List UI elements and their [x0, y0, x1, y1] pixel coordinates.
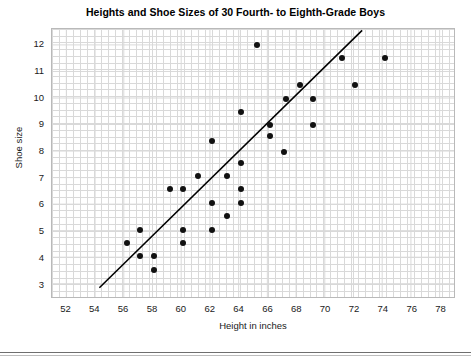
data-point: [180, 227, 186, 233]
data-point: [137, 253, 143, 259]
y-tick-label: 4: [22, 252, 44, 263]
data-point: [124, 240, 130, 246]
data-point: [281, 149, 287, 155]
page-divider-rule-secondary: [0, 355, 471, 356]
y-tick-label: 10: [22, 92, 44, 103]
y-tick-label: 3: [22, 279, 44, 290]
data-point: [238, 160, 244, 166]
data-point: [238, 200, 244, 206]
data-point: [209, 200, 215, 206]
x-tick-label: 68: [284, 303, 308, 314]
data-point: [224, 213, 230, 219]
y-tick-label: 11: [22, 65, 44, 76]
data-point: [238, 186, 244, 192]
y-tick-label: 6: [22, 198, 44, 209]
y-tick-label: 7: [22, 172, 44, 183]
data-point: [180, 240, 186, 246]
scatter-plot-figure: Heights and Shoe Sizes of 30 Fourth- to …: [0, 0, 471, 363]
data-point: [283, 96, 289, 102]
data-point: [267, 133, 273, 139]
data-point: [209, 227, 215, 233]
data-point: [209, 138, 215, 144]
data-point: [195, 173, 201, 179]
data-point: [297, 82, 303, 88]
x-axis-label: Height in inches: [51, 320, 455, 331]
data-point: [167, 186, 173, 192]
plot-area: [51, 28, 455, 298]
data-point: [224, 173, 230, 179]
x-tick-label: 70: [313, 303, 337, 314]
data-point: [180, 186, 186, 192]
x-tick-label: 66: [255, 303, 279, 314]
x-tick-label: 52: [53, 303, 77, 314]
x-tick-label: 54: [82, 303, 106, 314]
x-tick-label: 64: [227, 303, 251, 314]
x-tick-label: 58: [140, 303, 164, 314]
data-point: [238, 109, 244, 115]
data-point: [339, 55, 345, 61]
y-axis-label: Shoe size: [13, 103, 24, 193]
data-point: [352, 82, 358, 88]
data-point: [267, 122, 273, 128]
trend-line: [52, 29, 454, 297]
chart-title: Heights and Shoe Sizes of 30 Fourth- to …: [0, 6, 471, 18]
page-divider-rule: [0, 352, 471, 353]
x-tick-label: 78: [429, 303, 453, 314]
x-tick-label: 56: [111, 303, 135, 314]
x-tick-label: 72: [342, 303, 366, 314]
major-gridlines: [52, 29, 454, 297]
data-point: [254, 42, 260, 48]
x-tick-label: 62: [198, 303, 222, 314]
data-point: [310, 96, 316, 102]
y-tick-label: 5: [22, 225, 44, 236]
data-point: [137, 227, 143, 233]
data-point: [151, 253, 157, 259]
data-point: [151, 267, 157, 273]
data-point: [382, 55, 388, 61]
data-point: [310, 122, 316, 128]
y-tick-label: 12: [22, 38, 44, 49]
x-tick-label: 76: [400, 303, 424, 314]
y-tick-label: 9: [22, 118, 44, 129]
x-tick-label: 74: [371, 303, 395, 314]
y-tick-label: 8: [22, 145, 44, 156]
x-tick-label: 60: [169, 303, 193, 314]
